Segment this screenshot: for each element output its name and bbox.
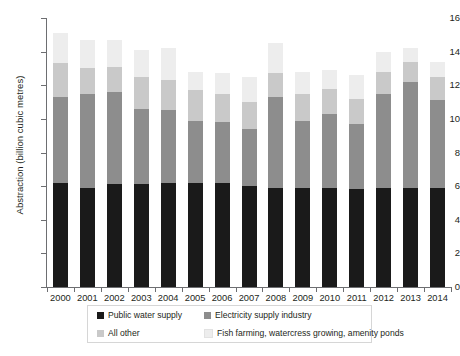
- bar-segment-electricity-supply-industry: [322, 114, 337, 188]
- bar-2007[interactable]: [242, 18, 257, 287]
- bar-2009[interactable]: [295, 18, 310, 287]
- legend-label-all-other: All other: [108, 329, 140, 338]
- bar-segment-electricity-supply-industry: [242, 129, 257, 186]
- bar-2010[interactable]: [322, 18, 337, 287]
- legend-entry-all-other[interactable]: All other: [97, 325, 140, 342]
- x-axis-tick: [316, 288, 317, 292]
- legend-row-1: Public water supply Electricity supply i…: [88, 307, 371, 324]
- bar-segment-fish-farming: [188, 72, 203, 90]
- bar-segment-public-water-supply: [322, 188, 337, 287]
- x-axis-tick: [47, 288, 48, 292]
- x-axis-tick: [262, 288, 263, 292]
- legend-entry-fish-farming[interactable]: Fish farming, watercress growing, amenit…: [204, 325, 404, 342]
- x-axis-tick-label-2014: 2014: [424, 293, 451, 303]
- bar-segment-all-other: [295, 94, 310, 121]
- x-axis-tick: [343, 288, 344, 292]
- y-axis-title: Abstraction (billion cubic metres): [14, 0, 30, 290]
- bar-segment-fish-farming: [53, 33, 68, 63]
- legend-label-fish-farming: Fish farming, watercress growing, amenit…: [217, 329, 404, 338]
- bar-2014[interactable]: [430, 18, 445, 287]
- bar-segment-public-water-supply: [107, 184, 122, 287]
- bar-2011[interactable]: [349, 18, 364, 287]
- bar-segment-all-other: [376, 72, 391, 94]
- bar-segment-public-water-supply: [215, 183, 230, 287]
- bar-2006[interactable]: [215, 18, 230, 287]
- x-axis-tick-label-2004: 2004: [155, 293, 182, 303]
- x-axis-tick: [74, 288, 75, 292]
- bar-2000[interactable]: [53, 18, 68, 287]
- legend-swatch-fish-farming: [204, 329, 213, 338]
- bar-segment-fish-farming: [403, 48, 418, 61]
- bar-segment-fish-farming: [242, 77, 257, 102]
- x-axis-line: [46, 287, 452, 288]
- bar-segment-all-other: [430, 77, 445, 101]
- bar-segment-electricity-supply-industry: [53, 97, 68, 183]
- x-axis-tick-label-2001: 2001: [74, 293, 101, 303]
- bar-segment-public-water-supply: [295, 188, 310, 287]
- legend-swatch-public-water-supply: [97, 312, 104, 319]
- bar-segment-all-other: [268, 73, 283, 97]
- bar-segment-public-water-supply: [161, 183, 176, 287]
- x-axis-tick-label-2013: 2013: [397, 293, 424, 303]
- legend-entry-electricity-supply-industry[interactable]: Electricity supply industry: [204, 307, 311, 324]
- bar-2012[interactable]: [376, 18, 391, 287]
- abstraction-stacked-bar-chart: Abstraction (billion cubic metres) 02468…: [0, 0, 460, 356]
- legend-label-electricity-supply-industry: Electricity supply industry: [215, 311, 311, 320]
- bar-segment-all-other: [403, 62, 418, 82]
- plot-area: [47, 18, 451, 287]
- legend-swatch-electricity-supply-industry: [204, 312, 211, 319]
- bar-segment-public-water-supply: [134, 184, 149, 287]
- x-axis-tick: [101, 288, 102, 292]
- x-axis-tick: [236, 288, 237, 292]
- x-axis-tick-label-2009: 2009: [289, 293, 316, 303]
- bar-2001[interactable]: [80, 18, 95, 287]
- bar-segment-fish-farming: [268, 43, 283, 73]
- bar-segment-fish-farming: [107, 40, 122, 67]
- x-axis-tick: [155, 288, 156, 292]
- bar-segment-all-other: [53, 63, 68, 97]
- bar-segment-electricity-supply-industry: [161, 110, 176, 182]
- bar-2005[interactable]: [188, 18, 203, 287]
- x-axis-tick-label-2007: 2007: [236, 293, 263, 303]
- bar-segment-all-other: [188, 90, 203, 120]
- bar-segment-fish-farming: [161, 48, 176, 80]
- x-axis-tick-label-2005: 2005: [182, 293, 209, 303]
- bar-segment-electricity-supply-industry: [376, 94, 391, 188]
- bar-segment-fish-farming: [322, 70, 337, 88]
- bar-2004[interactable]: [161, 18, 176, 287]
- x-axis-tick-label-2000: 2000: [47, 293, 74, 303]
- bar-segment-public-water-supply: [53, 183, 68, 287]
- bar-segment-electricity-supply-industry: [107, 92, 122, 184]
- x-axis-tick-label-2003: 2003: [128, 293, 155, 303]
- bar-segment-public-water-supply: [376, 188, 391, 287]
- x-axis-tick-label-2008: 2008: [262, 293, 289, 303]
- legend-row-2: All other Fish farming, watercress growi…: [88, 325, 371, 342]
- x-axis-tick: [397, 288, 398, 292]
- bar-2013[interactable]: [403, 18, 418, 287]
- bar-segment-all-other: [349, 99, 364, 124]
- bar-segment-fish-farming: [376, 52, 391, 72]
- x-axis-tick: [209, 288, 210, 292]
- x-axis-tick-label-2012: 2012: [370, 293, 397, 303]
- x-axis-tick-label-2006: 2006: [209, 293, 236, 303]
- bar-2003[interactable]: [134, 18, 149, 287]
- bar-segment-public-water-supply: [80, 188, 95, 287]
- legend-entry-public-water-supply[interactable]: Public water supply: [97, 307, 182, 324]
- bar-2008[interactable]: [268, 18, 283, 287]
- bar-segment-public-water-supply: [188, 183, 203, 287]
- bar-segment-all-other: [107, 67, 122, 92]
- bar-segment-all-other: [80, 68, 95, 93]
- x-axis-tick: [128, 288, 129, 292]
- x-axis-tick: [451, 288, 452, 292]
- bar-segment-all-other: [134, 77, 149, 109]
- bar-segment-electricity-supply-industry: [268, 97, 283, 188]
- bar-segment-electricity-supply-industry: [349, 124, 364, 190]
- bar-2002[interactable]: [107, 18, 122, 287]
- bar-segment-electricity-supply-industry: [134, 109, 149, 185]
- legend-swatch-all-other: [97, 330, 104, 337]
- bar-segment-public-water-supply: [430, 188, 445, 287]
- x-axis-tick-label-2010: 2010: [316, 293, 343, 303]
- x-axis-tick: [182, 288, 183, 292]
- bar-segment-electricity-supply-industry: [403, 82, 418, 188]
- bar-segment-public-water-supply: [242, 186, 257, 287]
